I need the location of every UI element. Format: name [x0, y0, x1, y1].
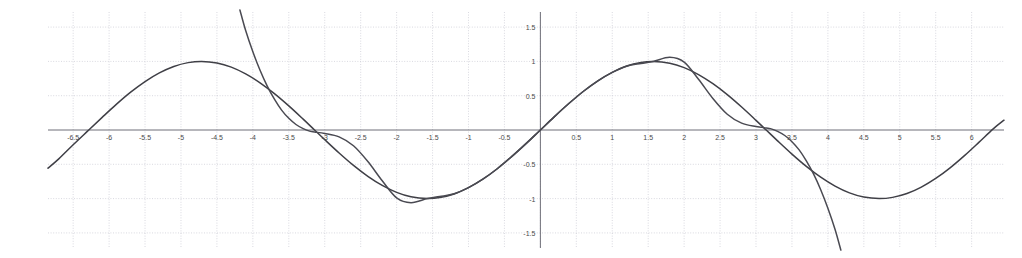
x-tick-label: 2.5 — [715, 134, 725, 141]
x-tick-label: 6 — [970, 134, 974, 141]
x-tick-label: 4 — [826, 134, 830, 141]
x-tick-label: 1.5 — [643, 134, 653, 141]
axes-group — [48, 12, 1004, 248]
y-tick-label: -1 — [529, 196, 535, 203]
x-tick-label: -0.5 — [498, 134, 510, 141]
x-tick-label: -2 — [393, 134, 399, 141]
x-tick-label: -5.5 — [139, 134, 151, 141]
y-tick-label: 1.5 — [526, 24, 536, 31]
y-tick-label: -1.5 — [523, 230, 535, 237]
function-plot-figure: -6.5-6-5.5-5-4.5-4-3.5-3-2.5-2-1.5-1-0.5… — [0, 0, 1022, 258]
x-tick-label: -4.5 — [211, 134, 223, 141]
x-tick-label: 3 — [754, 134, 758, 141]
x-axis-tick-labels: -6.5-6-5.5-5-4.5-4-3.5-3-2.5-2-1.5-1-0.5… — [67, 134, 974, 141]
y-tick-label: 0.5 — [526, 93, 536, 100]
x-tick-label: 5 — [898, 134, 902, 141]
x-tick-label: 1 — [610, 134, 614, 141]
y-tick-label: -0.5 — [523, 161, 535, 168]
x-tick-label: 3.5 — [787, 134, 797, 141]
x-tick-label: -1.5 — [427, 134, 439, 141]
x-tick-label: -2.5 — [355, 134, 367, 141]
x-tick-label: 2 — [682, 134, 686, 141]
x-tick-label: 4.5 — [859, 134, 869, 141]
x-tick-label: -4 — [250, 134, 256, 141]
x-tick-label: -3.5 — [283, 134, 295, 141]
x-tick-label: -6.5 — [67, 134, 79, 141]
x-tick-label: 0.5 — [571, 134, 581, 141]
plot-canvas: -6.5-6-5.5-5-4.5-4-3.5-3-2.5-2-1.5-1-0.5… — [0, 0, 1022, 258]
x-tick-label: -6 — [106, 134, 112, 141]
x-tick-label: -5 — [178, 134, 184, 141]
x-tick-label: 5.5 — [931, 134, 941, 141]
y-tick-label: 1 — [531, 58, 535, 65]
x-tick-label: -3 — [322, 134, 328, 141]
x-tick-label: -1 — [465, 134, 471, 141]
